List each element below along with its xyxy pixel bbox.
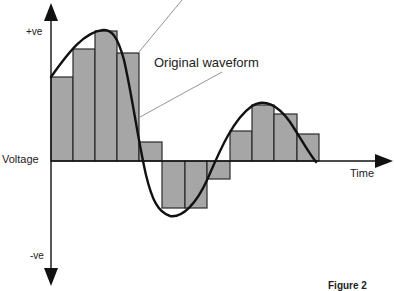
positive-voltage-label: +ve xyxy=(26,26,42,37)
arrow-up-icon xyxy=(44,3,58,21)
sample-bar xyxy=(252,105,274,161)
sample-bar xyxy=(230,131,252,161)
arrow-down-icon xyxy=(44,268,58,286)
sample-bar xyxy=(162,161,185,208)
arrow-right-icon xyxy=(375,154,393,168)
sample-bar xyxy=(274,114,297,161)
time-axis-label: Time xyxy=(350,167,374,179)
sample-bar xyxy=(73,49,95,161)
original-waveform-label: Original waveform xyxy=(154,55,259,70)
figure-caption: Figure 2 xyxy=(328,280,367,291)
voltage-axis-label: Voltage xyxy=(2,153,39,165)
sample-bar xyxy=(95,31,117,161)
sample-bar xyxy=(51,77,73,161)
negative-voltage-label: -ve xyxy=(30,250,44,261)
sample-bar xyxy=(117,53,139,161)
